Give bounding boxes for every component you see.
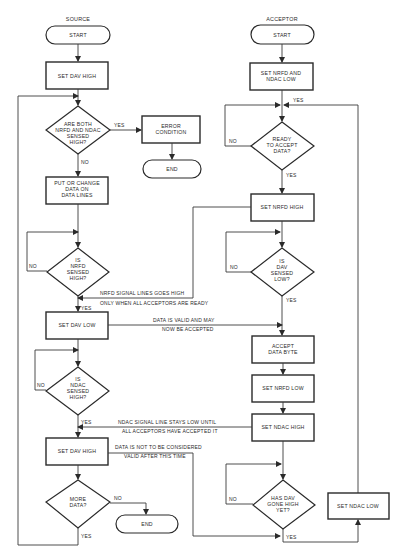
- source-set-dav-high-box: SET DAV HIGH: [46, 62, 108, 89]
- svg-text:DATA?: DATA?: [274, 148, 291, 154]
- is-nrfd-yes-label: YES: [81, 305, 92, 311]
- is-dav-yes-label: YES: [286, 297, 297, 303]
- error-condition-box: ERROR CONDITION: [142, 116, 200, 143]
- source-header: SOURCE: [66, 16, 90, 22]
- data-valid-annotation-2: NOW BE ACCEPTED: [162, 326, 214, 332]
- svg-text:CONDITION: CONDITION: [156, 129, 187, 135]
- ready-no-label: NO: [229, 138, 237, 144]
- ndac-signal-annotation-1: NDAC SIGNAL LINE STAYS LOW UNTIL: [118, 419, 216, 425]
- final-end-terminal: END: [116, 515, 178, 533]
- is-ndac-no-label: NO: [37, 382, 45, 388]
- svg-text:START: START: [273, 32, 291, 38]
- is-dav-no-label: NO: [230, 264, 238, 270]
- svg-text:HIGH?: HIGH?: [70, 275, 87, 281]
- accept-data-byte-box: ACCEPT DATA BYTE: [252, 336, 314, 363]
- svg-text:DATA LINES: DATA LINES: [61, 192, 93, 198]
- is-ndac-yes-label: YES: [81, 419, 92, 425]
- set-ndac-high-box: SET NDAC HIGH: [252, 414, 314, 441]
- more-data-yes-label: YES: [81, 533, 92, 539]
- decision-are-both-high: ARE BOTH NRFD AND NDAC SENSED HIGH?: [46, 106, 110, 154]
- decision-is-dav-low: IS DAV SENSED LOW?: [251, 248, 314, 296]
- svg-text:HIGH?: HIGH?: [70, 139, 87, 145]
- svg-text:SET DAV LOW: SET DAV LOW: [58, 322, 95, 328]
- decision-is-nrfd-high: IS NRFD SENSED HIGH?: [47, 248, 109, 296]
- nrfd-signal-annotation-1: NRFD SIGNAL LINES GOES HIGH: [100, 290, 185, 296]
- has-dav-no-label: NO: [229, 496, 237, 502]
- svg-text:END: END: [166, 166, 178, 172]
- svg-text:SET NRFD HIGH: SET NRFD HIGH: [261, 204, 304, 210]
- source-set-dav-high-2-box: SET DAV HIGH: [46, 438, 108, 465]
- more-data-no-label: NO: [114, 495, 122, 501]
- error-end-terminal: END: [143, 160, 201, 178]
- set-nrfd-ndac-low-box: SET NRFD AND NDAC LOW: [250, 63, 313, 90]
- acceptor-header: ACCEPTOR: [266, 16, 297, 22]
- are-both-yes-label: YES: [114, 122, 125, 128]
- svg-text:SET NRFD LOW: SET NRFD LOW: [262, 385, 304, 391]
- svg-text:DATA BYTE: DATA BYTE: [268, 349, 298, 355]
- has-dav-yes-label: YES: [286, 534, 297, 540]
- set-nrfd-high-box: SET NRFD HIGH: [251, 194, 314, 221]
- svg-text:HIGH?: HIGH?: [70, 394, 87, 400]
- acceptor-start-terminal: START: [251, 25, 314, 44]
- set-ndac-low-box: SET NDAC LOW: [328, 493, 389, 519]
- set-nrfd-low-box: SET NRFD LOW: [252, 375, 314, 402]
- source-start-label: START: [69, 32, 87, 38]
- nrfd-signal-annotation-2: ONLY WHEN ALL ACCEPTORS ARE READY: [100, 300, 209, 306]
- svg-text:NDAC LOW: NDAC LOW: [266, 76, 296, 82]
- svg-text:LOW?: LOW?: [274, 276, 290, 282]
- decision-has-dav-gone-high: HAS DAV GONE HIGH YET?: [253, 480, 315, 529]
- svg-text:END: END: [141, 521, 153, 527]
- are-both-no-label: NO: [81, 159, 89, 165]
- source-set-dav-high-label: SET DAV HIGH: [58, 73, 97, 79]
- svg-text:DATA?: DATA?: [70, 502, 87, 508]
- put-change-data-box: PUT OR CHANGE DATA ON DATA LINES: [46, 177, 108, 204]
- svg-text:SET NDAC HIGH: SET NDAC HIGH: [261, 424, 304, 430]
- data-not-valid-annotation-1: DATA IS NOT TO BE CONSIDERED: [115, 444, 202, 450]
- loop-yes-label: YES: [293, 97, 304, 103]
- set-dav-low-box: SET DAV LOW: [46, 312, 108, 339]
- svg-text:SET DAV HIGH: SET DAV HIGH: [58, 448, 97, 454]
- is-nrfd-no-label: NO: [29, 263, 37, 269]
- source-start-terminal: START: [46, 26, 110, 44]
- data-valid-annotation-1: DATA IS VALID AND MAY: [153, 317, 215, 323]
- decision-ready-to-accept: READY TO ACCEPT DATA?: [251, 122, 314, 170]
- data-not-valid-annotation-2: VALID AFTER THIS TIME: [124, 453, 186, 459]
- handshake-flowchart: SOURCE START SET DAV HIGH ARE BOTH NRFD …: [0, 0, 404, 557]
- decision-is-ndac-high: IS NDAC SENSED HIGH?: [46, 367, 109, 415]
- ready-yes-label: YES: [286, 172, 297, 178]
- ndac-signal-annotation-2: ALL ACCEPTORS HAVE ACCEPTED IT: [122, 428, 218, 434]
- svg-text:YET?: YET?: [276, 507, 290, 513]
- decision-more-data: MORE DATA?: [46, 480, 110, 528]
- svg-text:SET NDAC LOW: SET NDAC LOW: [337, 503, 379, 509]
